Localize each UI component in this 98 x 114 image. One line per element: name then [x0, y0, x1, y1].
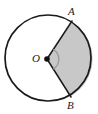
circle-sector-figure: A B O [0, 0, 98, 114]
point-label-b: B [67, 100, 74, 111]
center-point-dot [44, 56, 50, 62]
geometry-canvas [0, 0, 98, 114]
point-label-o: O [32, 53, 40, 64]
shaded-sector-region [47, 22, 93, 96]
point-label-a: A [68, 6, 75, 17]
